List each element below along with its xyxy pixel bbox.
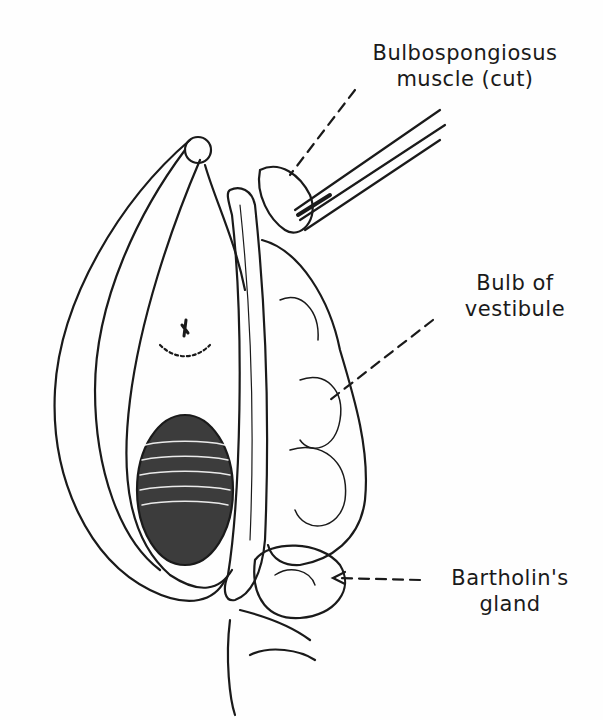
label-bulb-line2: vestibule xyxy=(440,296,590,322)
anatomical-diagram: Bulbospongiosus muscle (cut) Bulb of ves… xyxy=(0,0,603,720)
label-bulb-line1: Bulb of xyxy=(440,270,590,296)
label-bulb-of-vestibule: Bulb of vestibule xyxy=(440,270,590,322)
label-bartholin-line1: Bartholin's xyxy=(425,565,595,591)
label-bulbospongiosus-line2: muscle (cut) xyxy=(340,66,590,92)
label-bartholin-line2: gland xyxy=(425,591,595,617)
label-bartholins-gland: Bartholin's gland xyxy=(425,565,595,617)
label-bulbospongiosus-line1: Bulbospongiosus xyxy=(340,40,590,66)
label-bulbospongiosus: Bulbospongiosus muscle (cut) xyxy=(340,40,590,92)
